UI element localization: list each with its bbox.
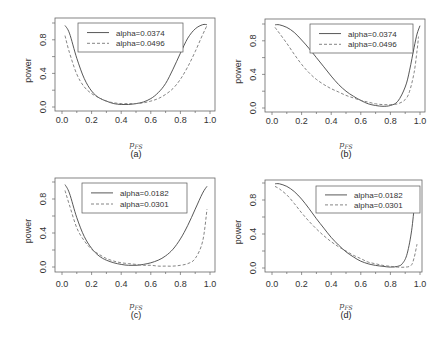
panel-d: 0.00.20.40.60.81.00.00.40.8powerpFS(d)al… [233, 180, 426, 320]
x-tick-label: 0.8 [384, 116, 397, 126]
panel-caption: (b) [341, 149, 352, 159]
legend-label: alpha=0.0182 [120, 189, 169, 198]
y-axis-label: power [23, 58, 33, 83]
y-tick-label: 0.0 [38, 101, 48, 114]
x-tick-label: 0.6 [355, 116, 368, 126]
y-tick-label: 0.4 [248, 228, 258, 241]
panel-c: 0.00.20.40.60.81.00.00.40.8powerpFS(c)al… [23, 178, 216, 320]
y-tick-label: 0.8 [38, 193, 48, 206]
y-tick-label: 0.4 [38, 227, 48, 240]
panel-caption: (c) [131, 310, 142, 320]
figure: 0.00.20.40.60.81.00.00.40.8powerpFS(a)al… [0, 0, 444, 339]
x-tick-label: 0.4 [115, 279, 128, 289]
y-tick-label: 0.0 [248, 102, 258, 115]
x-tick-label: 0.6 [145, 279, 158, 289]
legend: alpha=0.0374alpha=0.0496 [310, 24, 413, 53]
legend-label: alpha=0.0301 [354, 201, 403, 210]
legend-label: alpha=0.0182 [354, 191, 403, 200]
x-tick-label: 0.4 [325, 116, 338, 126]
legend: alpha=0.0182alpha=0.0301 [316, 186, 420, 213]
y-tick-label: 0.4 [248, 68, 258, 81]
x-tick-label: 0.2 [295, 279, 308, 289]
x-tick-label: 0.8 [174, 115, 187, 125]
x-tick-label: 0.0 [266, 116, 279, 126]
y-axis-label: power [233, 59, 243, 84]
legend: alpha=0.0182alpha=0.0301 [82, 183, 187, 213]
y-tick-label: 0.0 [248, 262, 258, 275]
x-tick-label: 0.6 [145, 115, 158, 125]
legend-label: alpha=0.0301 [120, 200, 169, 209]
x-tick-label: 0.6 [355, 279, 368, 289]
panel-b: 0.00.20.40.60.81.00.00.40.8powerpFS(b)al… [233, 19, 426, 159]
x-tick-label: 1.0 [204, 115, 217, 125]
y-tick-label: 0.8 [248, 194, 258, 207]
y-axis-label: power [233, 220, 243, 245]
x-tick-label: 0.2 [295, 116, 308, 126]
x-tick-label: 0.4 [115, 115, 128, 125]
x-tick-label: 1.0 [414, 116, 427, 126]
panel-caption: (a) [131, 149, 142, 159]
y-axis-label: power [23, 219, 33, 244]
y-tick-label: 0.0 [38, 261, 48, 274]
x-tick-label: 1.0 [204, 279, 217, 289]
x-tick-label: 0.0 [266, 279, 279, 289]
x-tick-label: 0.2 [85, 115, 98, 125]
x-tick-label: 0.8 [384, 279, 397, 289]
x-tick-label: 0.4 [325, 279, 338, 289]
legend-label: alpha=0.0496 [116, 39, 165, 48]
x-tick-label: 0.0 [56, 115, 69, 125]
y-tick-label: 0.8 [248, 35, 258, 48]
legend: alpha=0.0374alpha=0.0496 [78, 23, 183, 52]
legend-label: alpha=0.0374 [116, 29, 165, 38]
x-tick-label: 0.0 [56, 279, 69, 289]
panel-caption: (d) [341, 310, 352, 320]
legend-label: alpha=0.0496 [348, 40, 397, 49]
y-tick-label: 0.8 [38, 34, 48, 47]
x-tick-label: 1.0 [414, 279, 427, 289]
panel-a: 0.00.20.40.60.81.00.00.40.8powerpFS(a)al… [23, 18, 216, 159]
y-tick-label: 0.4 [38, 67, 48, 80]
x-tick-label: 0.8 [174, 279, 187, 289]
legend-label: alpha=0.0374 [348, 30, 397, 39]
x-tick-label: 0.2 [85, 279, 98, 289]
